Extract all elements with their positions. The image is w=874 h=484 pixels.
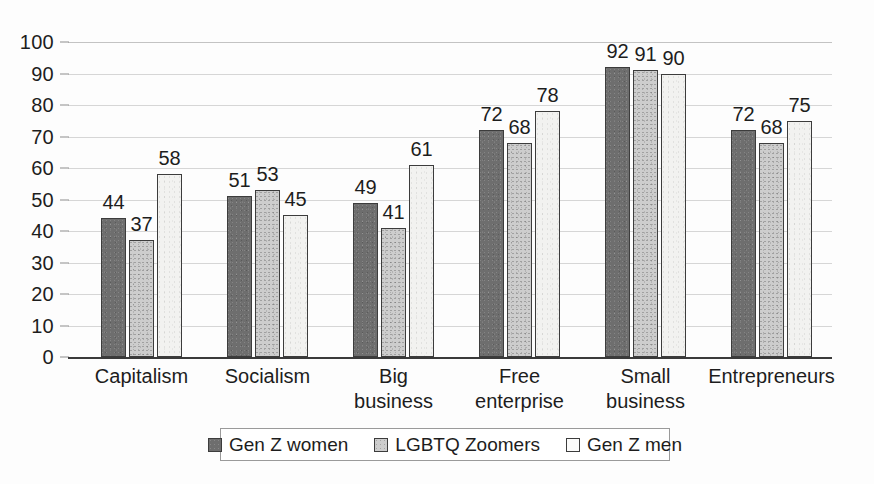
- y-tick-label: 40: [31, 220, 54, 243]
- y-tick-mark: [60, 199, 69, 200]
- y-tick-label: 70: [31, 125, 54, 148]
- legend-swatch-icon: [566, 438, 580, 452]
- bar: [409, 165, 434, 357]
- y-tick-mark: [60, 136, 69, 137]
- y-tick-mark: [60, 231, 69, 232]
- category-label: Entrepreneurs: [697, 364, 847, 389]
- plot-area: [68, 42, 832, 357]
- y-tick-label: 90: [31, 62, 54, 85]
- bar-value-label: 49: [346, 176, 386, 199]
- y-tick-mark: [60, 325, 69, 326]
- x-axis-line: [68, 357, 832, 359]
- y-tick-mark: [60, 168, 69, 169]
- bar: [227, 196, 252, 357]
- legend-label: LGBTQ Zoomers: [395, 434, 540, 456]
- bar-value-label: 75: [780, 94, 820, 117]
- y-tick-label: 80: [31, 94, 54, 117]
- bar-value-label: 53: [248, 163, 288, 186]
- legend-entry[interactable]: Gen Z men: [566, 434, 682, 456]
- bar: [507, 143, 532, 357]
- gridline: [68, 42, 832, 43]
- bar-value-label: 90: [654, 47, 694, 70]
- bar: [129, 240, 154, 357]
- bar: [255, 190, 280, 357]
- legend-entry[interactable]: LGBTQ Zoomers: [374, 434, 540, 456]
- y-tick-label: 100: [20, 31, 54, 54]
- bar-value-label: 68: [500, 116, 540, 139]
- y-axis: 0102030405060708090100: [0, 42, 62, 357]
- bar-value-label: 41: [374, 201, 414, 224]
- y-tick-label: 20: [31, 283, 54, 306]
- bar-value-label: 37: [122, 213, 162, 236]
- bar-value-label: 58: [150, 147, 190, 170]
- bar: [283, 215, 308, 357]
- gridline: [68, 231, 832, 232]
- legend-label: Gen Z women: [229, 434, 348, 456]
- gridline: [68, 74, 832, 75]
- legend-entry[interactable]: Gen Z women: [208, 434, 348, 456]
- bar: [731, 130, 756, 357]
- y-tick-mark: [60, 73, 69, 74]
- bar: [157, 174, 182, 357]
- legend-swatch-icon: [374, 438, 388, 452]
- y-tick-mark: [60, 105, 69, 106]
- bar: [605, 67, 630, 357]
- y-tick-label: 10: [31, 314, 54, 337]
- bar: [787, 121, 812, 357]
- y-tick-mark: [60, 42, 69, 43]
- gridline: [68, 326, 832, 327]
- legend-swatch-icon: [208, 438, 222, 452]
- bar: [353, 203, 378, 357]
- bar-value-label: 68: [752, 116, 792, 139]
- bar: [101, 218, 126, 357]
- bar: [479, 130, 504, 357]
- legend-label: Gen Z men: [587, 434, 682, 456]
- gridline: [68, 294, 832, 295]
- y-tick-label: 0: [43, 346, 54, 369]
- y-tick-mark: [60, 294, 69, 295]
- gridline: [68, 263, 832, 264]
- gridline: [68, 105, 832, 106]
- bar-value-label: 44: [94, 191, 134, 214]
- gridline: [68, 137, 832, 138]
- bar: [759, 143, 784, 357]
- y-tick-mark: [60, 262, 69, 263]
- gridline: [68, 200, 832, 201]
- bar-chart: 0102030405060708090100 44375851534549416…: [0, 0, 874, 484]
- bar: [381, 228, 406, 357]
- bar: [633, 70, 658, 357]
- bar-value-label: 61: [402, 138, 442, 161]
- y-tick-label: 60: [31, 157, 54, 180]
- chart-legend: Gen Z womenLGBTQ ZoomersGen Z men: [220, 428, 670, 461]
- y-tick-label: 50: [31, 188, 54, 211]
- bar: [535, 111, 560, 357]
- bar-value-label: 45: [276, 188, 316, 211]
- y-tick-label: 30: [31, 251, 54, 274]
- bar: [661, 74, 686, 358]
- bar-value-label: 78: [528, 84, 568, 107]
